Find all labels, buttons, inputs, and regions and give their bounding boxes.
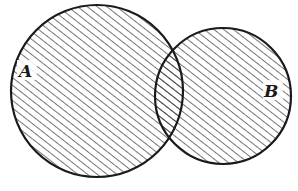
set-a-label: A <box>17 61 32 81</box>
venn-diagram: A B <box>0 0 298 191</box>
set-b-label: B <box>263 81 278 101</box>
